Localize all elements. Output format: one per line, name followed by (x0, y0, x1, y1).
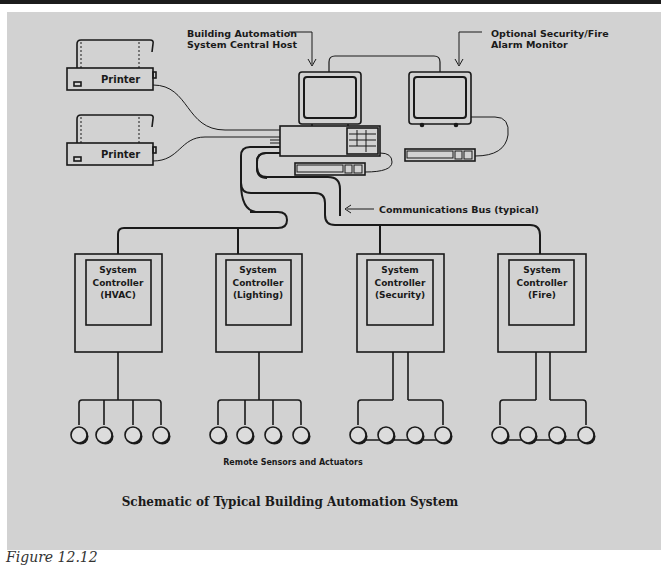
printer-label-2: Printer (101, 149, 140, 160)
controller-fire-line3: (Fire) (528, 290, 556, 300)
security-keyboard (405, 149, 475, 161)
figure-caption: Figure 12.12 (6, 549, 98, 565)
central-host-label-2: System Central Host (187, 39, 297, 50)
controller-hvac-line1: System (99, 265, 137, 275)
central-host-label-1: Building Automation (187, 28, 297, 39)
controller-fire-line1: System (523, 265, 561, 275)
security-monitor-label-1: Optional Security/Fire (491, 28, 609, 39)
controller-hvac-line2: Controller (93, 278, 144, 288)
diagram-title: Schematic of Typical Building Automation… (122, 495, 459, 509)
controller-lighting-line2: Controller (233, 278, 284, 288)
controller-fire-line2: Controller (517, 278, 568, 288)
sensors-security (350, 427, 453, 445)
sensors-label: Remote Sensors and Actuators (223, 458, 363, 467)
security-monitor (409, 72, 471, 127)
controller-lighting-line1: System (239, 265, 277, 275)
printer-label-1: Printer (101, 74, 140, 85)
controller-security-line2: Controller (375, 278, 426, 288)
controller-security-line1: System (381, 265, 419, 275)
sensors-hvac (71, 427, 171, 445)
host-monitor (299, 72, 361, 126)
sensors-fire (492, 427, 596, 445)
host-cpu (280, 126, 380, 156)
controller-security-line3: (Security) (375, 290, 425, 300)
comm-bus-label: Communications Bus (typical) (379, 204, 539, 215)
controller-hvac-line3: (HVAC) (100, 290, 136, 300)
sensors-lighting (210, 427, 311, 445)
security-monitor-label-2: Alarm Monitor (491, 39, 568, 50)
controller-lighting-line3: (Lighting) (233, 290, 283, 300)
host-keyboard (295, 163, 365, 175)
